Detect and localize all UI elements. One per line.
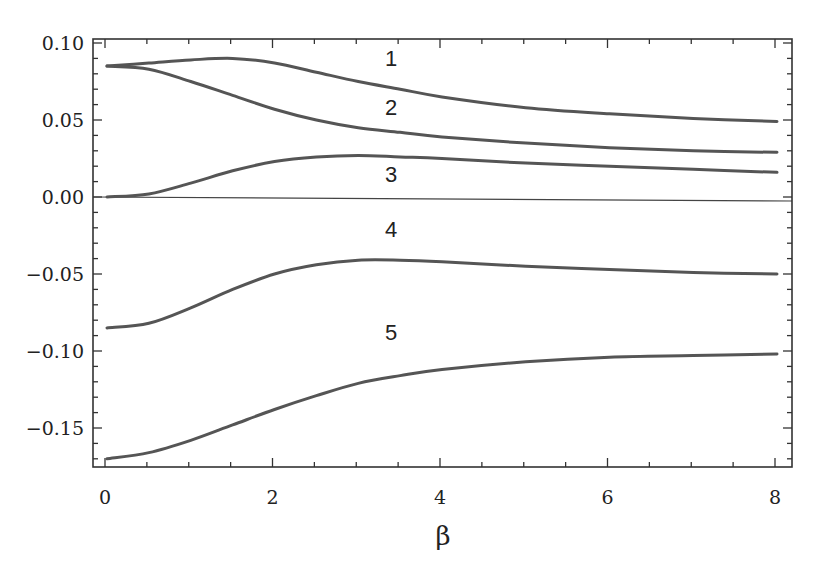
curve-labels: 12345	[385, 46, 397, 345]
curve-1	[107, 58, 777, 121]
curve-4	[107, 260, 777, 328]
curve-5	[107, 354, 777, 459]
curve-label-2: 2	[385, 95, 397, 120]
axis-tick-labels: 024680.100.050.00−0.05−0.10−0.15	[26, 32, 781, 508]
line-chart: 024680.100.050.00−0.05−0.10−0.15 12345 β	[0, 0, 816, 564]
curve-label-1: 1	[385, 46, 397, 71]
x-tick-label: 0	[99, 486, 111, 508]
y-tick-label: −0.05	[26, 263, 84, 285]
curve-3	[107, 155, 777, 197]
x-axis-title: β	[435, 521, 450, 551]
plot-frame	[93, 39, 792, 467]
curve-2	[107, 66, 777, 152]
x-tick-label: 6	[601, 486, 613, 508]
curve-label-3: 3	[385, 162, 397, 187]
zero-reference-line	[93, 197, 792, 201]
y-tick-label: −0.10	[26, 340, 84, 362]
y-tick-label: −0.15	[26, 417, 84, 439]
curve-label-4: 4	[385, 217, 397, 242]
data-curves	[107, 58, 777, 459]
y-tick-label: 0.00	[42, 186, 84, 208]
x-tick-label: 4	[434, 486, 446, 508]
axis-ticks	[93, 39, 792, 467]
x-tick-label: 2	[266, 486, 278, 508]
curve-label-5: 5	[385, 320, 397, 345]
y-tick-label: 0.05	[42, 109, 84, 131]
y-tick-label: 0.10	[42, 32, 84, 54]
x-tick-label: 8	[769, 486, 781, 508]
